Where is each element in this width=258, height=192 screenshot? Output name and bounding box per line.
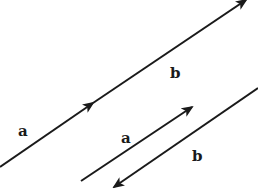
vector-label-a: a (18, 122, 28, 140)
vector-diagram: abab (0, 0, 258, 192)
vector-label-a: a (121, 129, 131, 147)
vector-b-main (93, 0, 246, 103)
vector-a-main (0, 103, 93, 167)
vector-b-reverse (114, 88, 258, 187)
vector-label-b: b (170, 64, 181, 82)
vector-label-b: b (192, 147, 203, 165)
